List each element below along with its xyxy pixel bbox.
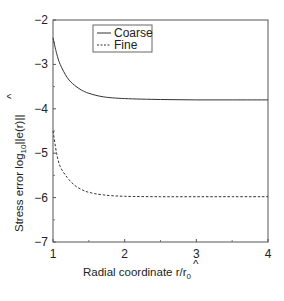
y-tick-label: −2 xyxy=(34,13,48,27)
x-tick-label: 2 xyxy=(121,247,128,261)
legend: Coarse Fine xyxy=(93,25,153,52)
x-tick-label: 1 xyxy=(50,247,57,261)
series-fine-line xyxy=(53,131,268,197)
y-label-main: Stress error log xyxy=(13,153,25,232)
y-axis-label: Stress error log10||e(r)|| ^ xyxy=(5,93,28,232)
y-label-rest: ||e( xyxy=(13,128,25,144)
svg-text:Radial coordinate r/r0: Radial coordinate r/r0 xyxy=(83,266,192,281)
y-tick-label: −4 xyxy=(34,102,48,116)
series-coarse-line xyxy=(53,38,268,100)
y-label-hat: ^ xyxy=(5,93,17,99)
y-tick-label: −3 xyxy=(34,57,48,71)
x-label-main: Radial coordinate xyxy=(83,266,176,278)
y-tick-label: −5 xyxy=(34,146,48,160)
x-label-hat: ^ xyxy=(193,258,199,270)
x-label-sub: 0 xyxy=(187,272,192,281)
chart: −2−3−4−5−6−7 1234 Coarse Fine Radial coo… xyxy=(0,0,284,301)
y-label-end: )|| xyxy=(13,115,25,125)
y-tick-label: −7 xyxy=(34,235,48,249)
x-tick-label: 4 xyxy=(265,247,272,261)
legend-fine-label: Fine xyxy=(114,38,138,52)
x-axis-label: Radial coordinate r/r0 ^ xyxy=(83,258,199,281)
svg-text:Stress error log10||e(r)||: Stress error log10||e(r)|| xyxy=(13,115,28,232)
plot-frame xyxy=(53,20,268,242)
plot-series xyxy=(53,38,268,197)
y-tick-label: −6 xyxy=(34,191,48,205)
